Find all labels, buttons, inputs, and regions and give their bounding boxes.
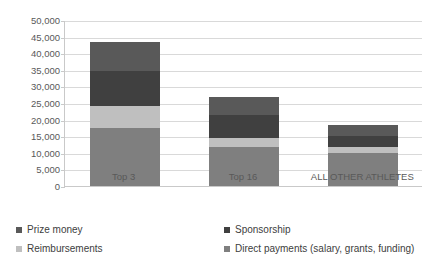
bar-segment[interactable] [90, 71, 160, 106]
stacked-bar-chart: 05,00010,00015,00020,00025,00030,00035,0… [0, 0, 442, 269]
bar-segment[interactable] [328, 136, 398, 147]
legend-label-reimbursements: Reimbursements [27, 244, 103, 254]
y-axis-tick-label: 0 [55, 182, 60, 192]
y-axis-tick-label: 30,000 [31, 82, 60, 92]
legend-swatch-prize-money [16, 227, 22, 233]
y-axis-tick-label: 45,000 [31, 33, 60, 43]
y-axis-tick-label: 50,000 [31, 16, 60, 26]
legend-swatch-reimbursements [16, 246, 22, 252]
y-axis-tick-label: 35,000 [31, 66, 60, 76]
gridline [65, 38, 422, 39]
y-axis-tick-label: 40,000 [31, 49, 60, 59]
legend-label-direct-payments: Direct payments (salary, grants, funding… [235, 244, 414, 254]
bar-segment[interactable] [90, 106, 160, 128]
x-axis-category-label: Top 3 [64, 172, 183, 182]
y-tick-mark [61, 104, 65, 105]
legend-label-prize-money: Prize money [27, 225, 83, 235]
y-tick-mark [61, 54, 65, 55]
y-tick-mark [61, 21, 65, 22]
legend-item-prize-money[interactable]: Prize money [16, 225, 83, 235]
plot-area [64, 21, 422, 187]
y-axis-tick-label: 5,000 [36, 165, 60, 175]
bar-segment[interactable] [328, 125, 398, 137]
x-axis-category-label: ALL OTHER ATHLETES [303, 172, 422, 182]
y-tick-mark [61, 121, 65, 122]
x-axis-category-label: Top 16 [183, 172, 302, 182]
y-tick-mark [61, 71, 65, 72]
gridline [65, 21, 422, 22]
y-tick-mark [61, 154, 65, 155]
legend-item-direct-payments[interactable]: Direct payments (salary, grants, funding… [224, 244, 414, 254]
y-axis-tick-label: 20,000 [31, 116, 60, 126]
y-tick-mark [61, 137, 65, 138]
y-tick-mark [61, 87, 65, 88]
bar-segment[interactable] [90, 42, 160, 71]
y-tick-mark [61, 187, 65, 188]
legend-item-reimbursements[interactable]: Reimbursements [16, 244, 103, 254]
legend-swatch-direct-payments [224, 246, 230, 252]
y-axis-tick-label: 10,000 [31, 149, 60, 159]
y-tick-mark [61, 38, 65, 39]
bar-stack[interactable] [90, 42, 160, 186]
legend-swatch-sponsorship [224, 227, 230, 233]
legend-label-sponsorship: Sponsorship [235, 225, 291, 235]
bar-segment[interactable] [209, 115, 279, 138]
y-axis-tick-label: 25,000 [31, 99, 60, 109]
chart-legend: Prize money Sponsorship Reimbursements D… [0, 222, 442, 268]
bar-segment[interactable] [209, 97, 279, 114]
bar-segment[interactable] [209, 138, 279, 147]
y-axis-tick-label: 15,000 [31, 132, 60, 142]
legend-item-sponsorship[interactable]: Sponsorship [224, 225, 291, 235]
